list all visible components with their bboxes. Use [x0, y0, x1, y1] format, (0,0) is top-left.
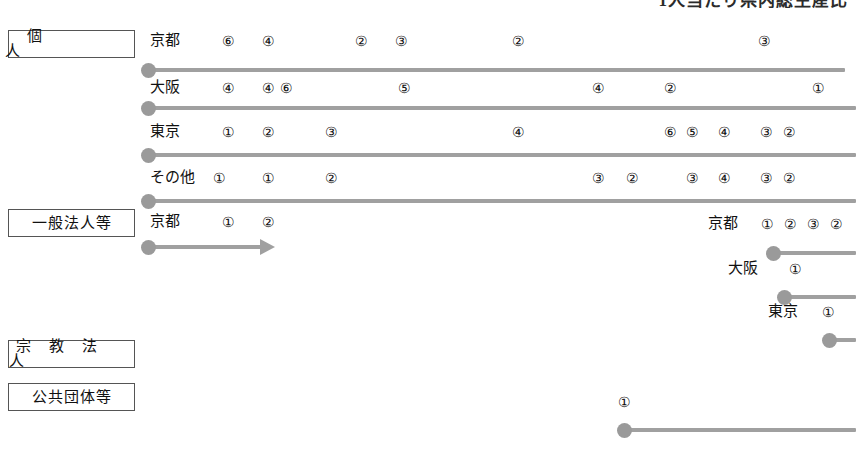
bar-individual-kyoto	[147, 68, 845, 72]
marker: ③	[395, 35, 408, 49]
marker: ③	[686, 172, 699, 186]
bar-start-dot-individual-other	[141, 194, 156, 209]
row-label-individual-kyoto: 京都	[150, 33, 180, 48]
row-label-individual-tokyo: 東京	[150, 124, 180, 139]
marker: ②	[262, 126, 275, 140]
marker: ④	[718, 172, 731, 186]
bar-individual-tokyo	[147, 153, 856, 157]
marker: ⑥	[664, 126, 677, 140]
bar-public-body	[629, 428, 856, 432]
marker: ⑤	[686, 126, 699, 140]
marker: ③	[325, 126, 338, 140]
row-label-general-kyoto-left: 京都	[150, 214, 180, 229]
bar-general-tokyo-right	[834, 338, 856, 342]
marker: ①	[761, 218, 774, 232]
marker: ①	[822, 306, 835, 320]
marker: ②	[262, 216, 275, 230]
category-label-individual: 個 人	[5, 29, 138, 59]
marker: ④	[512, 126, 525, 140]
marker: ②	[355, 35, 368, 49]
bar-individual-osaka	[147, 106, 856, 110]
marker: ②	[664, 82, 677, 96]
marker: ②	[783, 126, 796, 140]
marker: ②	[830, 218, 843, 232]
marker: ③	[760, 172, 773, 186]
marker: ③	[592, 172, 605, 186]
marker: ⑥	[280, 82, 293, 96]
marker: ④	[592, 82, 605, 96]
marker: ⑤	[398, 82, 411, 96]
category-label-general-corporation: 一般法人等	[31, 216, 112, 231]
marker: ②	[783, 172, 796, 186]
marker: ⑥	[222, 35, 235, 49]
bar-start-dot-individual-osaka	[141, 101, 156, 116]
marker: ③	[758, 35, 771, 49]
marker: ①	[262, 172, 275, 186]
row-label-individual-other: その他	[150, 170, 195, 185]
page-title: 1人当たり県内総生産比	[659, 0, 849, 8]
marker: ②	[512, 35, 525, 49]
marker: ④	[262, 82, 275, 96]
category-box-public-body: 公共団体等	[8, 383, 135, 411]
marker: ④	[262, 35, 275, 49]
marker: ①	[618, 396, 631, 410]
marker: ①	[222, 216, 235, 230]
marker: ③	[760, 126, 773, 140]
marker: ③	[807, 218, 820, 232]
bar-start-dot-general-kyoto-right	[766, 246, 781, 261]
category-label-public-body: 公共団体等	[31, 390, 112, 405]
bar-start-dot-general-kyoto-left	[141, 240, 156, 255]
marker: ④	[718, 126, 731, 140]
bar-individual-other	[147, 199, 856, 203]
bar-general-osaka-right	[789, 295, 856, 299]
marker: ①	[789, 263, 802, 277]
marker: ①	[213, 172, 226, 186]
bar-start-dot-general-osaka-right	[777, 290, 792, 305]
bar-start-dot-public-body	[617, 423, 632, 438]
marker: ②	[325, 172, 338, 186]
marker: ②	[626, 172, 639, 186]
category-box-individual: 個 人	[8, 30, 135, 58]
marker: ①	[812, 82, 825, 96]
category-box-general-corporation: 一般法人等	[8, 209, 135, 237]
row-label-general-kyoto-right: 京都	[708, 216, 738, 231]
category-label-religious-corporation: 宗 教 法 人	[9, 339, 134, 369]
row-label-general-tokyo-right: 東京	[768, 304, 798, 319]
marker: ②	[784, 218, 797, 232]
bar-start-dot-individual-tokyo	[141, 148, 156, 163]
row-label-general-osaka-right: 大阪	[728, 261, 758, 276]
row-label-individual-osaka: 大阪	[150, 80, 180, 95]
marker: ①	[222, 126, 235, 140]
marker: ④	[222, 82, 235, 96]
bar-start-dot-individual-kyoto	[141, 63, 156, 78]
category-box-religious-corporation: 宗 教 法 人	[8, 340, 135, 368]
bar-general-kyoto-left	[147, 245, 262, 249]
arrowhead-icon	[260, 239, 275, 255]
timeline-diagram: 1人当たり県内総生産比 個 人 一般法人等 宗 教 法 人 公共団体等 京都 大…	[0, 0, 856, 463]
bar-start-dot-general-tokyo-right	[822, 333, 837, 348]
bar-general-kyoto-right	[778, 251, 856, 255]
